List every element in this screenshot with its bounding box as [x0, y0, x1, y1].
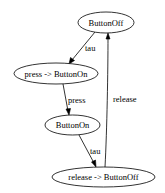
arrowhead-icon: [66, 109, 71, 116]
node-label: ButtonOn: [56, 120, 90, 130]
node-press-to-buttonon: press -> ButtonOn: [14, 63, 98, 84]
node-label: release -> ButtonOff: [68, 172, 138, 182]
node-label: ButtonOff: [89, 18, 124, 28]
edge-label-tau: tau: [90, 146, 101, 156]
edge-press-to-buttonon: press: [63, 84, 85, 115]
state-diagram: tau press tau release ButtonOff press ->…: [0, 0, 165, 193]
edge-label-press: press: [68, 95, 85, 105]
node-release-to-buttonoff: release -> ButtonOff: [52, 167, 155, 187]
edge-label-release: release: [113, 94, 137, 104]
edge-buttonoff-to-press: tau: [69, 32, 96, 64]
arrowhead-icon: [106, 33, 110, 39]
node-buttonoff: ButtonOff: [78, 12, 134, 33]
edge-release-to-buttonoff: release: [105, 33, 137, 167]
node-label: press -> ButtonOn: [25, 69, 89, 79]
edge-label-tau: tau: [85, 43, 96, 53]
edge-buttonon-to-release: tau: [79, 135, 101, 167]
edge-line: [105, 37, 108, 167]
arrowhead-icon: [92, 160, 97, 167]
node-buttonon: ButtonOn: [45, 115, 100, 135]
